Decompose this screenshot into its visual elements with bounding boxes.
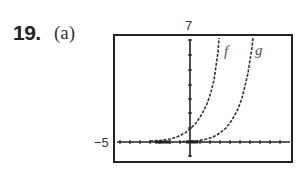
curve-f-label: f — [224, 43, 230, 59]
curve-f — [150, 38, 219, 141]
graph-frame — [114, 35, 292, 162]
graph: 7 −5 f g — [0, 0, 300, 170]
x-min-label: −5 — [94, 135, 109, 150]
y-max-label: 7 — [185, 18, 192, 33]
curve-g-label: g — [255, 42, 263, 58]
